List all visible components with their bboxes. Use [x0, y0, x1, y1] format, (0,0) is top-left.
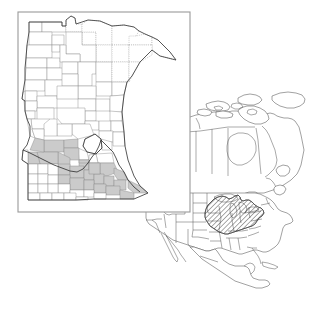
county-red-lake — [52, 45, 60, 52]
county-kittson — [29, 22, 42, 32]
county-meeker — [57, 124, 72, 136]
county-isanti — [99, 121, 111, 131]
county-marshall — [29, 32, 52, 45]
county-mille-lacs — [96, 99, 110, 111]
county-rock — [28, 174, 38, 184]
county-kanabec — [110, 111, 122, 121]
county-shaded-mcleod — [64, 139, 78, 148]
county-aitkin — [96, 82, 112, 96]
county-rock-south — [28, 184, 38, 193]
county-bottom-row-1 — [28, 193, 40, 200]
county-freeborn-south — [84, 190, 94, 197]
county-grant — [25, 91, 37, 101]
county-murray — [38, 164, 48, 174]
county-bottom-row-2 — [40, 193, 52, 200]
county-crow-wing — [78, 86, 96, 99]
county-dakota-mn — [96, 153, 114, 163]
county-shaded-mower — [94, 184, 106, 193]
county-shaded-watonwan — [58, 175, 70, 184]
county-st-louis-east — [112, 45, 129, 62]
locator-map-figure — [0, 0, 331, 319]
county-hubbard — [62, 62, 78, 74]
county-jackson-south — [48, 184, 58, 193]
county-mahnomen — [47, 58, 60, 68]
county-polk — [26, 45, 52, 58]
county-norman — [26, 58, 47, 68]
county-bottom-row-4 — [64, 193, 76, 200]
county-douglas — [37, 96, 57, 108]
county-pennington — [52, 35, 64, 45]
county-shaded-scott-river — [79, 160, 89, 163]
county-jackson — [48, 175, 58, 184]
county-shaded-faribault — [70, 178, 84, 190]
county-benton — [85, 111, 96, 121]
county-st-louis-mid — [96, 45, 112, 62]
county-stearns — [57, 108, 85, 124]
county-chisago — [111, 121, 124, 132]
county-beltrami-north — [82, 32, 96, 45]
county-washington — [113, 132, 125, 146]
county-todd — [57, 86, 78, 99]
county-nobles — [38, 174, 48, 184]
county-pope — [37, 108, 54, 120]
county-nobles-south — [38, 184, 48, 193]
county-clay — [25, 68, 47, 80]
county-martin — [58, 184, 70, 193]
county-bottom-row-3 — [52, 193, 64, 200]
minnesota-county-inset — [0, 0, 331, 319]
county-itasca — [96, 62, 112, 82]
county-st-louis-south — [112, 62, 129, 82]
county-shaded-fillmore — [106, 186, 120, 195]
county-mower-south — [94, 193, 106, 199]
county-pipestone — [28, 164, 38, 174]
county-wilkin — [25, 80, 45, 91]
county-shaded-renville — [44, 140, 64, 152]
county-stevens — [24, 101, 37, 111]
county-wadena — [62, 74, 78, 86]
county-shaded-freeborn — [84, 180, 94, 190]
county-shaded-steele — [94, 174, 104, 184]
county-shaded-brown — [58, 164, 70, 175]
county-shaded-dakota-river — [89, 163, 100, 174]
